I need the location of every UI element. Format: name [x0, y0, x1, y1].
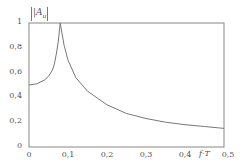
y-tick-label: 0,6 — [9, 67, 22, 76]
y-tick-label: 1 — [17, 17, 22, 26]
x-tick-label: 0,3 — [140, 150, 153, 159]
y-tick-label: 0,4 — [9, 91, 22, 100]
x-tick-label: 0,5 — [222, 150, 235, 159]
chart: |Au 00,20,40,60,81 00,10,20,30,40,5 f·T — [0, 0, 244, 168]
x-tick-label: 0,4 — [179, 150, 192, 159]
y-tick-label: 0 — [17, 141, 22, 150]
x-axis-label: f·T — [199, 149, 210, 158]
x-tick-label: 0 — [26, 150, 31, 159]
y-axis-label: |Au — [31, 7, 48, 21]
x-tick-label: 0,1 — [62, 150, 75, 159]
y-tick-label: 0,2 — [9, 116, 22, 125]
plot-area — [0, 0, 244, 168]
x-tick-label: 0,2 — [101, 150, 114, 159]
magnitude-curve — [29, 23, 224, 128]
y-tick-label: 0,8 — [9, 42, 22, 51]
